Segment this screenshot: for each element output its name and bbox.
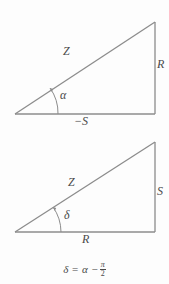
equation: δ = α −π2 <box>0 261 169 279</box>
bottom-triangle-base-label: R <box>82 233 89 245</box>
bottom-triangle-hypotenuse-label: Z <box>68 176 75 188</box>
top-triangle-group <box>15 22 155 114</box>
top-triangle-base-label: −S <box>74 115 88 127</box>
equation-operator: − <box>91 263 99 275</box>
equation-term: α <box>82 263 88 275</box>
bottom-triangle-angle-arrowhead <box>53 207 56 211</box>
bottom-triangle-group <box>15 142 155 232</box>
top-triangle-angle-label: α <box>60 89 66 101</box>
top-triangle-hypotenuse-line <box>15 22 155 114</box>
equation-fraction-denominator: 2 <box>100 270 106 278</box>
bottom-triangle-angle-label: δ <box>64 209 70 221</box>
geometry-figure: Z R −S α Z S R δ δ = α −π2 <box>0 0 169 284</box>
bottom-triangle-angle-arc <box>53 207 61 232</box>
bottom-triangle-hypotenuse-line <box>15 142 155 232</box>
equation-fraction: π2 <box>100 261 106 279</box>
top-triangle-angle-arc <box>50 88 58 114</box>
top-triangle-vertical-side-label: R <box>157 58 164 70</box>
equation-equals: = <box>71 263 79 275</box>
top-triangle-hypotenuse-label: Z <box>63 45 70 57</box>
bottom-triangle-vertical-side-label: S <box>157 185 163 197</box>
equation-lhs: δ <box>63 263 68 275</box>
